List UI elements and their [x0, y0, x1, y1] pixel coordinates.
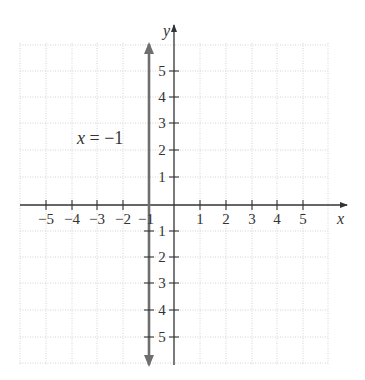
y-tick-label: 1 — [158, 223, 166, 239]
x-tick-label: −5 — [38, 211, 54, 227]
x-tick-label: −3 — [89, 211, 105, 227]
x-tick-label: 4 — [273, 211, 281, 227]
x-tick-label: 2 — [222, 211, 230, 227]
y-tick-labels: 5 4 3 2 1 1 2 3 4 5 — [158, 63, 166, 345]
y-tick-label: 5 — [158, 329, 166, 345]
x-tick-label: −1 — [138, 211, 154, 227]
x-tick-labels: −5 −4 −3 −2 −1 1 2 3 4 5 — [38, 211, 307, 227]
x-tick-label: 1 — [196, 211, 204, 227]
y-tick-label: 4 — [158, 89, 166, 105]
y-tick-label: 4 — [158, 302, 166, 318]
y-tick-label: 1 — [158, 169, 166, 185]
x-tick-label: −2 — [115, 211, 131, 227]
annotation-value: = −1 — [85, 128, 123, 148]
coordinate-plane: −5 −4 −3 −2 −1 1 2 3 4 5 5 4 3 2 1 1 2 3… — [0, 0, 365, 380]
y-tick-label: 5 — [158, 63, 166, 79]
x-axis-label: x — [336, 210, 344, 227]
y-tick-label: 3 — [158, 115, 166, 131]
y-tick-label: 3 — [158, 275, 166, 291]
line-annotation: x = −1 — [76, 128, 123, 148]
annotation-variable: x — [76, 128, 85, 148]
x-tick-label: 3 — [248, 211, 256, 227]
y-axis-label: y — [161, 22, 171, 40]
y-tick-label: 2 — [158, 142, 166, 158]
y-tick-label: 2 — [158, 249, 166, 265]
x-tick-label: −4 — [64, 211, 80, 227]
x-tick-label: 5 — [299, 211, 307, 227]
